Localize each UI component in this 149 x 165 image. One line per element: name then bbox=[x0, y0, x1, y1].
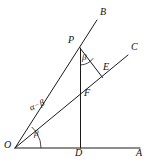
point-label-C: C bbox=[131, 42, 138, 52]
point-label-B: B bbox=[100, 7, 106, 17]
segment-OB bbox=[15, 20, 97, 148]
angle-label-P-beta: β bbox=[82, 53, 86, 62]
angle-label-O-beta: β bbox=[34, 129, 38, 138]
geometry-canvas bbox=[0, 0, 149, 165]
point-label-A: A bbox=[136, 148, 142, 158]
point-label-O: O bbox=[4, 140, 11, 150]
point-label-E: E bbox=[103, 62, 109, 72]
geometry-figure: O A B C P D E F β α−β β bbox=[0, 0, 149, 165]
point-label-P: P bbox=[68, 35, 74, 45]
point-label-D: D bbox=[75, 148, 82, 158]
point-label-F: F bbox=[84, 88, 90, 98]
